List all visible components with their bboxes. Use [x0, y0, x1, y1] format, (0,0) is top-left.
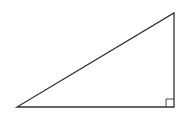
right-triangle [17, 13, 174, 107]
triangle-diagram [0, 0, 189, 121]
right-angle-marker [166, 99, 174, 107]
